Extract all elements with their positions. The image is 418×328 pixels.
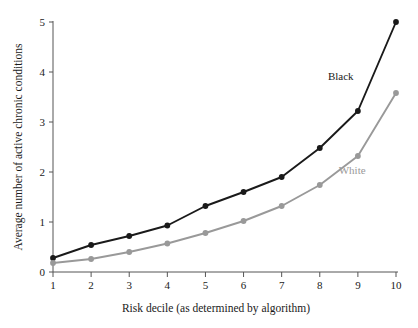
x-tick-label: 2 bbox=[88, 279, 94, 291]
data-point bbox=[126, 249, 132, 255]
data-point bbox=[50, 255, 56, 261]
data-point bbox=[355, 153, 361, 159]
y-tick-label: 3 bbox=[40, 116, 46, 128]
chart-canvas: 012345 12345678910 BlackWhite Risk decil… bbox=[0, 0, 418, 328]
data-point bbox=[164, 241, 170, 247]
data-point bbox=[279, 203, 285, 209]
data-point bbox=[393, 19, 399, 25]
x-tick-label: 5 bbox=[203, 279, 209, 291]
x-axis-title: Risk decile (as determined by algorithm) bbox=[122, 302, 310, 315]
data-point bbox=[317, 182, 323, 188]
y-axis-title: Average number of active chronic conditi… bbox=[12, 43, 25, 251]
series-label-white: White bbox=[339, 164, 366, 176]
data-point bbox=[241, 218, 247, 224]
x-tick-label: 6 bbox=[241, 279, 247, 291]
x-tick-label: 10 bbox=[391, 279, 403, 291]
y-tick-label: 4 bbox=[40, 66, 46, 78]
data-point bbox=[203, 203, 209, 209]
y-tick-label: 2 bbox=[40, 166, 46, 178]
data-point bbox=[203, 230, 209, 236]
data-point bbox=[393, 90, 399, 96]
y-tick-label: 0 bbox=[40, 266, 46, 278]
x-tick-label: 4 bbox=[165, 279, 171, 291]
data-point bbox=[50, 260, 56, 266]
data-point bbox=[317, 145, 323, 151]
x-tick-label: 9 bbox=[355, 279, 361, 291]
x-tick-label: 8 bbox=[317, 279, 323, 291]
data-point bbox=[126, 233, 132, 239]
x-tick-label: 7 bbox=[279, 279, 285, 291]
data-point bbox=[279, 174, 285, 180]
x-tick-label: 3 bbox=[126, 279, 132, 291]
y-tick-label: 5 bbox=[40, 16, 46, 28]
chart-container: 012345 12345678910 BlackWhite Risk decil… bbox=[0, 0, 418, 328]
series-label-black: Black bbox=[328, 70, 354, 82]
y-tick-label: 1 bbox=[40, 216, 46, 228]
x-tick-label: 1 bbox=[50, 279, 56, 291]
data-point bbox=[88, 256, 94, 262]
data-point bbox=[241, 189, 247, 195]
data-point bbox=[88, 242, 94, 248]
data-point bbox=[164, 223, 170, 229]
data-point bbox=[355, 108, 361, 114]
